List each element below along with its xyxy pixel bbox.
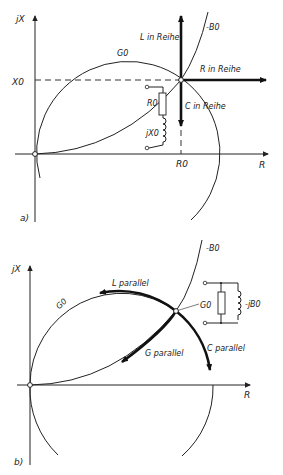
g0-label: G0: [54, 297, 68, 311]
g0-circle: [30, 293, 176, 455]
resistor-icon: [159, 93, 166, 115]
jx0-inductor-label: jX0: [145, 129, 159, 138]
b0-label: -B0: [206, 244, 219, 253]
jb0-inductor-label: -jB0: [245, 300, 261, 309]
series-circuit: R0 jX0: [145, 85, 166, 150]
r-axis-label: R: [259, 160, 265, 170]
impedance-diagrams: jX R a) X0 R0 G0 -B0 L in Reihe R in Rei…: [0, 0, 283, 475]
l-in-reihe-label: L in Reihe: [140, 33, 180, 42]
r-in-reihe-label: R in Reihe: [200, 65, 241, 74]
g0-circle-lower: [182, 385, 213, 456]
b0-label: -B0: [206, 23, 219, 32]
origin-point: [28, 383, 33, 388]
r0-label: R0: [176, 159, 188, 169]
g-parallel-label: G parallel: [145, 349, 184, 358]
conductance-icon: [218, 292, 225, 314]
r-axis-label: R: [244, 390, 250, 400]
arrow-c-parallel: [176, 311, 210, 370]
g0-conductance-label: G0: [200, 301, 211, 310]
jx-axis-label: jX: [14, 14, 26, 24]
g0-label: G0: [117, 49, 128, 58]
operating-point: [179, 78, 184, 83]
figure-b: jX R b) G0 -B0 L parallel G parallel C p…: [10, 240, 261, 467]
c-in-reihe-label: C in Reihe: [185, 102, 226, 111]
x0-label: X0: [11, 77, 24, 87]
panel-label-a: a): [20, 213, 29, 223]
inductor-icon: [238, 283, 241, 320]
c-parallel-label: C parallel: [207, 344, 246, 353]
panel-label-b: b): [14, 457, 23, 467]
g0-circle: [37, 61, 220, 220]
l-parallel-label: L parallel: [112, 279, 150, 288]
figure-a: jX R a) X0 R0 G0 -B0 L in Reihe R in Rei…: [11, 12, 268, 223]
operating-point: [174, 309, 179, 314]
r0-resistor-label: R0: [147, 99, 158, 108]
jx-axis-label: jX: [10, 264, 22, 274]
origin-point: [33, 152, 38, 157]
